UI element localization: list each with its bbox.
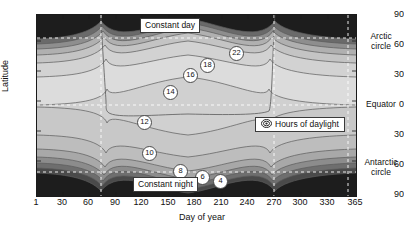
- contour-label-10: 10: [142, 146, 157, 161]
- x-axis-title: Day of year: [0, 212, 404, 222]
- x-tick-60: 60: [74, 198, 102, 207]
- side-label-arctic-circle-line1: Arctic: [358, 31, 404, 41]
- side-label-antarctic-circle-line1: Antarctic: [358, 157, 404, 167]
- contour-label-18: 18: [200, 58, 215, 73]
- legend-box: Hours of daylight: [255, 117, 345, 132]
- x-tick-120: 120: [127, 198, 155, 207]
- y-tick-90s: 90: [382, 190, 404, 199]
- x-tick-30: 30: [48, 198, 76, 207]
- y-tick-30s: 30: [382, 130, 404, 139]
- plot-area: 22 18 16 14 12 10 8 6 4 Constant day Con…: [36, 14, 357, 197]
- x-tick-90: 90: [101, 198, 129, 207]
- x-tick-1: 1: [22, 198, 50, 207]
- contour-label-14: 14: [163, 85, 178, 100]
- contour-rings-icon: [261, 119, 272, 128]
- callout-constant-day: Constant day: [140, 18, 200, 33]
- side-label-arctic-circle-line2: circle: [358, 41, 404, 51]
- side-label-equator: Equator: [358, 99, 404, 109]
- y-tick-90n: 90: [382, 10, 404, 19]
- x-tick-300: 300: [286, 198, 314, 207]
- contour-label-4: 4: [213, 174, 228, 189]
- contour-label-12: 12: [137, 115, 152, 130]
- y-tick-30n: 30: [382, 70, 404, 79]
- contour-plot-svg: [37, 15, 356, 196]
- legend-label: Hours of daylight: [275, 119, 339, 129]
- contour-label-16: 16: [183, 68, 198, 83]
- callout-constant-night: Constant night: [133, 177, 198, 192]
- x-tick-365: 365: [341, 198, 369, 207]
- side-label-antarctic-circle-line2: circle: [358, 167, 404, 177]
- y-axis-title: Latitude: [0, 60, 10, 92]
- x-tick-180: 180: [180, 198, 208, 207]
- x-tick-240: 240: [233, 198, 261, 207]
- daylight-hours-contour-figure: Latitude 90 60 30 0 30 60 90: [0, 0, 404, 229]
- x-tick-270: 270: [260, 198, 288, 207]
- x-tick-210: 210: [207, 198, 235, 207]
- x-tick-330: 330: [313, 198, 341, 207]
- x-tick-150: 150: [154, 198, 182, 207]
- contour-label-22: 22: [229, 46, 244, 61]
